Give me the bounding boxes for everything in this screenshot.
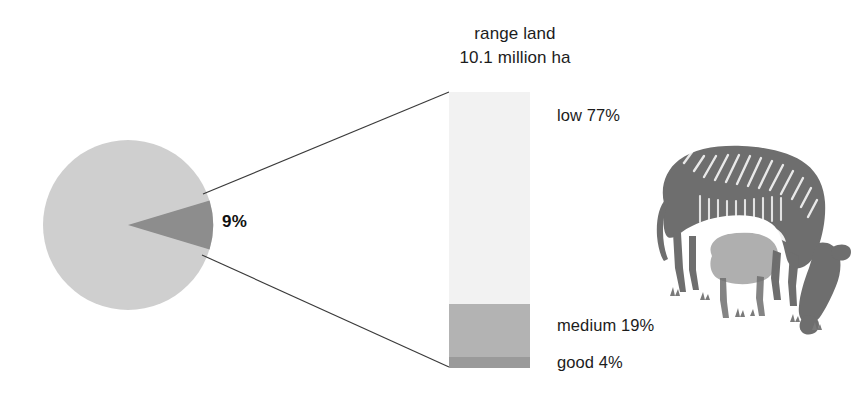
pie-chart xyxy=(43,140,213,310)
bar-segment-low[interactable] xyxy=(449,92,530,304)
cow-ear xyxy=(831,245,851,261)
leader-line-top xyxy=(203,92,449,194)
leader-line-bottom xyxy=(202,255,449,367)
range-land-figure: range land 10.1 million ha 9% low 77% me… xyxy=(0,0,857,410)
bar-label-good: good 4% xyxy=(557,353,623,372)
cow-front-leg-near xyxy=(673,233,686,292)
bar-segment-good[interactable] xyxy=(449,357,530,368)
calf-front-leg xyxy=(720,278,729,318)
bar-label-medium: medium 19% xyxy=(557,316,654,335)
bar-segment-medium[interactable] xyxy=(449,304,530,357)
pie-wedge-percent-label: 9% xyxy=(222,212,247,232)
cow-front-leg-far xyxy=(689,236,699,290)
stacked-bar xyxy=(449,92,530,368)
grazing-cow-icon xyxy=(657,146,851,335)
cow-hind-leg-near xyxy=(788,252,799,306)
calf-hind-leg xyxy=(756,276,765,316)
bar-title-line-1: range land xyxy=(400,22,630,46)
calf-body xyxy=(710,232,778,284)
bar-label-low: low 77% xyxy=(557,106,620,125)
bar-title-line-2: 10.1 million ha xyxy=(400,46,630,70)
cow-muzzle xyxy=(800,315,819,334)
bar-title: range land 10.1 million ha xyxy=(400,22,630,70)
